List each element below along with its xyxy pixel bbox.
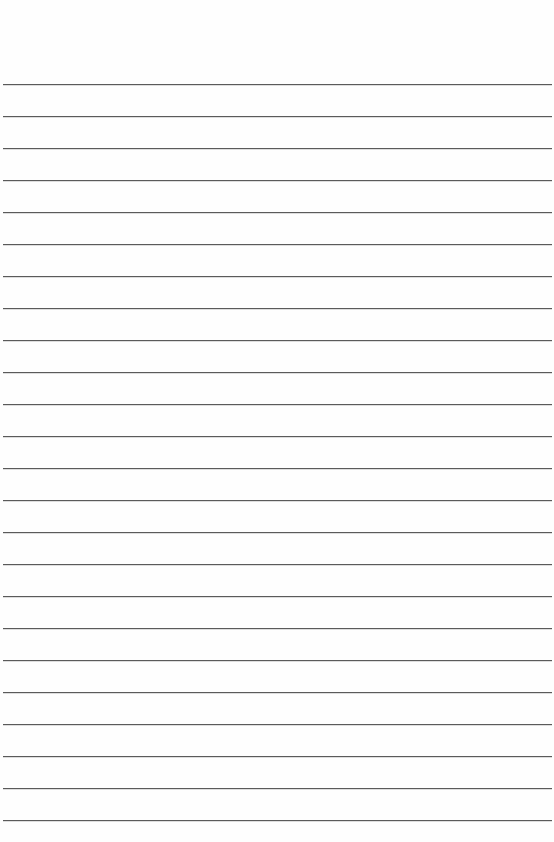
ruled-line — [3, 244, 552, 245]
ruled-line — [3, 116, 552, 117]
ruled-line — [3, 500, 552, 501]
ruled-line — [3, 180, 552, 181]
ruled-line — [3, 212, 552, 213]
ruled-line — [3, 468, 552, 469]
ruled-line — [3, 596, 552, 597]
ruled-line — [3, 308, 552, 309]
ruled-line — [3, 628, 552, 629]
ruled-line — [3, 820, 552, 821]
ruled-line — [3, 148, 552, 149]
ruled-line — [3, 564, 552, 565]
ruled-line — [3, 276, 552, 277]
ruled-line — [3, 84, 552, 85]
ruled-line — [3, 724, 552, 725]
ruled-line — [3, 340, 552, 341]
lined-paper-page — [0, 0, 554, 842]
ruled-line — [3, 532, 552, 533]
ruled-line — [3, 660, 552, 661]
ruled-line — [3, 788, 552, 789]
ruled-line — [3, 692, 552, 693]
ruled-line — [3, 372, 552, 373]
ruled-line — [3, 756, 552, 757]
ruled-line — [3, 436, 552, 437]
ruled-line — [3, 404, 552, 405]
